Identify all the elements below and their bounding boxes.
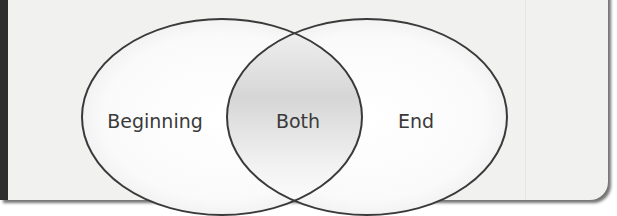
label-beginning: Beginning xyxy=(107,110,203,132)
label-both: Both xyxy=(276,110,320,132)
label-end: End xyxy=(398,110,434,132)
venn-diagram: Beginning Both End xyxy=(0,0,617,216)
